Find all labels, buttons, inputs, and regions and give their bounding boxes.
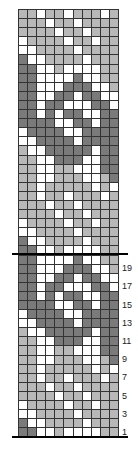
grid-cell bbox=[37, 65, 46, 74]
grid-cell bbox=[28, 74, 37, 83]
grid-cell bbox=[28, 410, 37, 419]
grid-cell bbox=[19, 383, 28, 392]
grid-cell bbox=[74, 292, 83, 301]
grid-cell bbox=[19, 128, 28, 137]
grid-cell bbox=[83, 410, 92, 419]
grid-cell bbox=[55, 46, 64, 55]
grid-cell bbox=[46, 210, 55, 219]
grid-cell bbox=[64, 410, 73, 419]
grid-cell bbox=[55, 274, 64, 283]
grid-cell bbox=[64, 156, 73, 165]
grid-cell bbox=[92, 146, 101, 155]
row-label: 17 bbox=[122, 282, 132, 291]
grid-cell bbox=[92, 274, 101, 283]
grid-cell bbox=[19, 92, 28, 101]
grid-cell bbox=[83, 210, 92, 219]
grid-cell bbox=[92, 228, 101, 237]
grid-cell bbox=[28, 401, 37, 410]
grid-cell bbox=[74, 83, 83, 92]
grid-cell bbox=[55, 328, 64, 337]
grid-cell bbox=[64, 46, 73, 55]
grid-cell bbox=[110, 328, 119, 337]
grid-cell bbox=[92, 65, 101, 74]
grid-cell bbox=[83, 274, 92, 283]
grid-cell bbox=[74, 392, 83, 401]
grid-cell bbox=[37, 101, 46, 110]
grid-cell bbox=[19, 46, 28, 55]
grid-cell bbox=[46, 74, 55, 83]
grid-cell bbox=[46, 356, 55, 365]
grid-cell bbox=[74, 365, 83, 374]
grid-cell bbox=[37, 237, 46, 246]
grid-cell bbox=[28, 46, 37, 55]
grid-cell bbox=[46, 256, 55, 265]
grid-cell bbox=[28, 301, 37, 310]
grid-cell bbox=[101, 210, 110, 219]
grid-cell bbox=[83, 119, 92, 128]
grid-cell bbox=[110, 265, 119, 274]
grid-cell bbox=[92, 101, 101, 110]
grid-cell bbox=[74, 410, 83, 419]
grid-cell bbox=[19, 328, 28, 337]
grid-cell bbox=[37, 19, 46, 28]
grid-cell bbox=[28, 319, 37, 328]
grid-cell bbox=[101, 410, 110, 419]
grid-cell bbox=[83, 83, 92, 92]
grid-cell bbox=[19, 210, 28, 219]
grid-cell bbox=[28, 65, 37, 74]
grid-cell bbox=[37, 137, 46, 146]
grid-cell bbox=[110, 119, 119, 128]
grid-cell bbox=[37, 128, 46, 137]
grid-cell bbox=[46, 374, 55, 383]
grid-cell bbox=[74, 283, 83, 292]
grid-cell bbox=[92, 92, 101, 101]
grid-cell bbox=[28, 274, 37, 283]
grid-cell bbox=[74, 165, 83, 174]
grid-cell bbox=[92, 19, 101, 28]
grid-cell bbox=[37, 92, 46, 101]
grid-cell bbox=[28, 256, 37, 265]
grid-cell bbox=[55, 301, 64, 310]
grid-cell bbox=[83, 19, 92, 28]
grid-cell bbox=[110, 156, 119, 165]
grid-cell bbox=[19, 183, 28, 192]
grid-cell bbox=[101, 74, 110, 83]
grid-cell bbox=[92, 46, 101, 55]
grid-cell bbox=[101, 310, 110, 319]
grid-cell bbox=[110, 192, 119, 201]
grid-cell bbox=[101, 256, 110, 265]
grid-cell bbox=[83, 201, 92, 210]
grid-cell bbox=[110, 274, 119, 283]
grid-cell bbox=[74, 28, 83, 37]
grid-cell bbox=[37, 292, 46, 301]
grid-cell bbox=[46, 310, 55, 319]
grid-cell bbox=[101, 55, 110, 64]
grid-cell bbox=[83, 146, 92, 155]
grid-cell bbox=[19, 346, 28, 355]
grid-cell bbox=[55, 265, 64, 274]
grid-cell bbox=[64, 137, 73, 146]
grid-cell bbox=[101, 92, 110, 101]
grid-cell bbox=[37, 365, 46, 374]
grid-cell bbox=[37, 274, 46, 283]
grid-cell bbox=[28, 201, 37, 210]
grid-cell bbox=[55, 119, 64, 128]
grid-cell bbox=[46, 174, 55, 183]
grid-cell bbox=[19, 237, 28, 246]
grid-cell bbox=[28, 310, 37, 319]
grid-cell bbox=[74, 201, 83, 210]
grid-cell bbox=[74, 237, 83, 246]
grid-cell bbox=[28, 156, 37, 165]
grid-cell bbox=[110, 46, 119, 55]
grid-cell bbox=[92, 310, 101, 319]
grid-cell bbox=[55, 10, 64, 19]
grid-cell bbox=[19, 301, 28, 310]
grid-cell bbox=[46, 192, 55, 201]
grid-cell bbox=[64, 119, 73, 128]
grid-cell bbox=[110, 365, 119, 374]
grid-cell bbox=[64, 192, 73, 201]
grid-cell bbox=[92, 83, 101, 92]
grid-cell bbox=[46, 37, 55, 46]
grid-cell bbox=[74, 401, 83, 410]
grid-cell bbox=[19, 392, 28, 401]
